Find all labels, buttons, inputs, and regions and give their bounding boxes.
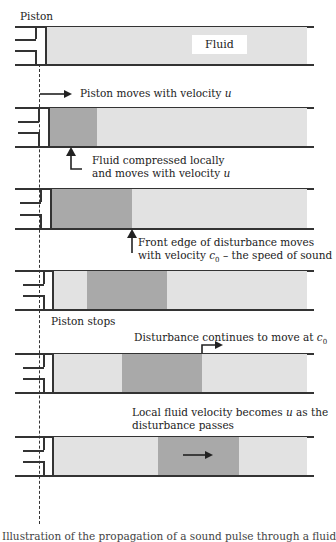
- piston-face: [52, 436, 54, 476]
- piston-body: [43, 353, 45, 367]
- piston-rod-bottom: [23, 378, 44, 380]
- fluid-label: Fluid: [192, 35, 247, 54]
- piston-stops-annotation: Piston stops: [51, 315, 116, 328]
- up-arrow-icon: [127, 229, 137, 253]
- piston-rod-bottom: [23, 461, 44, 463]
- piston-face: [50, 188, 52, 229]
- piston-rod-top: [23, 367, 44, 369]
- right-arrow-icon: [40, 89, 74, 99]
- piston-face: [52, 270, 54, 310]
- piston-moves-annotation: Piston moves with velocity u: [80, 87, 232, 100]
- piston-body: [43, 270, 45, 284]
- piston-body: [40, 214, 42, 228]
- figure-caption-truncated: Illustration of the propagation of a sou…: [2, 530, 336, 542]
- piston-face: [45, 26, 47, 65]
- piston-label: Piston: [20, 10, 53, 23]
- piston-rod-bottom: [20, 214, 41, 216]
- piston-body: [40, 188, 42, 202]
- piston-face: [52, 353, 54, 393]
- up-arrow-icon: [66, 147, 86, 173]
- piston-rod-bottom: [15, 50, 36, 52]
- right-arrow-icon: [183, 450, 215, 460]
- piston-body: [38, 132, 40, 146]
- piston-body: [35, 26, 37, 39]
- piston-body: [38, 107, 40, 121]
- disturbance-region: [87, 271, 167, 309]
- piston-rod-top: [20, 202, 41, 204]
- piston-body: [43, 461, 45, 475]
- piston-body: [43, 378, 45, 392]
- piston-rod-top: [23, 284, 44, 286]
- disturbance-region: [51, 189, 132, 228]
- piston-rod-top: [15, 39, 36, 41]
- tube-bottom-wall: [15, 475, 314, 477]
- disturbance-region: [49, 108, 97, 146]
- front-edge-annotation-line1: Front edge of disturbance moves: [138, 236, 314, 249]
- tube-bottom-wall: [15, 309, 314, 311]
- piston-face: [48, 107, 50, 147]
- tube-bottom-wall: [15, 64, 314, 66]
- piston-rod-top: [23, 450, 44, 452]
- local-velocity-annotation-line2: disturbance passes: [132, 419, 234, 432]
- piston-rod-top: [18, 121, 39, 123]
- local-velocity-annotation-line1: Local fluid velocity becomes u as the: [132, 406, 328, 419]
- piston-body: [35, 50, 37, 64]
- front-edge-annotation-line2: with velocity c0 – the speed of sound: [138, 249, 332, 267]
- piston-rod-bottom: [18, 132, 39, 134]
- continues-annotation: Disturbance continues to move at c0: [134, 331, 327, 349]
- tube-bottom-wall: [15, 228, 314, 230]
- compressed-annotation-line1: Fluid compressed locally: [92, 154, 224, 167]
- disturbance-region: [122, 354, 202, 392]
- compressed-annotation-line2: and moves with velocity u: [92, 167, 230, 180]
- tube-bottom-wall: [15, 146, 314, 148]
- tube-bottom-wall: [15, 392, 314, 394]
- fluid-region: [46, 27, 307, 64]
- piston-body: [43, 436, 45, 450]
- piston-rod-bottom: [23, 295, 44, 297]
- piston-body: [43, 295, 45, 309]
